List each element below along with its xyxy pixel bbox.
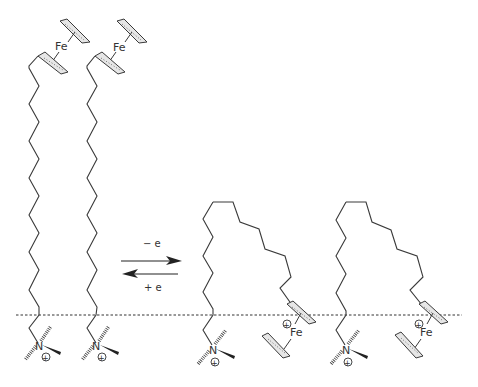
ferrocenium-3: + Fe <box>262 301 316 358</box>
reduction-label: + e <box>144 282 162 293</box>
ferrocenium-4: + Fe <box>395 301 448 358</box>
alkyl-chain-1 <box>29 56 39 343</box>
cp-ring-bottom-icon <box>95 52 125 74</box>
alkyl-chain-3 <box>213 202 292 305</box>
ammonium-head-3: N + <box>198 330 235 368</box>
cp-ring-top-icon <box>117 19 147 43</box>
n-label: N <box>342 344 350 357</box>
ammonium-head-2: N + <box>82 326 119 363</box>
alkyl-chain-4-left <box>336 202 346 345</box>
fe-label: Fe <box>420 326 433 339</box>
alkyl-chain-4 <box>346 202 423 305</box>
oxidation-label: − e <box>143 238 161 249</box>
ammonium-head-4: N + <box>331 330 368 368</box>
cp-ring-bottom-icon <box>395 332 423 358</box>
cp-ring-top-icon <box>419 301 448 324</box>
svg-text:+: + <box>42 354 49 363</box>
svg-text:+: + <box>283 321 290 330</box>
n-label: N <box>209 344 217 357</box>
cp-ring-bottom-icon <box>262 333 290 358</box>
fe-label: Fe <box>113 41 126 54</box>
svg-text:+: + <box>344 359 351 368</box>
fe-label: Fe <box>55 40 68 53</box>
alkyl-chain-3-left <box>203 202 213 345</box>
alkyl-chain-2 <box>87 56 97 343</box>
diagram-canvas: Fe N + Fe N <box>0 0 478 387</box>
n-label: N <box>35 340 43 353</box>
molecule-2-extended: Fe N + <box>82 19 147 363</box>
svg-text:+: + <box>98 354 105 363</box>
ferrocene-2: Fe <box>95 19 147 74</box>
molecule-1-extended: Fe N + <box>25 19 90 363</box>
scheme-svg: Fe N + Fe N <box>0 0 478 387</box>
n-label: N <box>92 340 100 353</box>
svg-text:+: + <box>211 359 218 368</box>
fe-label: Fe <box>290 326 303 339</box>
ammonium-head-1: N + <box>25 326 61 363</box>
cp-ring-bottom-icon <box>38 52 68 74</box>
ferrocene-1: Fe <box>38 19 90 74</box>
molecule-4-looped: + Fe N + <box>331 202 448 368</box>
redox-equilibrium-arrows: − e + e <box>121 238 182 293</box>
cp-ring-top-icon <box>287 301 316 324</box>
molecule-3-looped: + Fe N + <box>198 202 316 368</box>
